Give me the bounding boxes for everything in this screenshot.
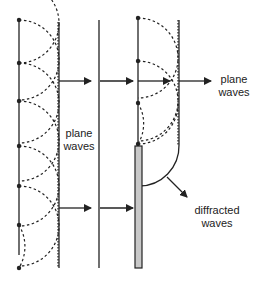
label-line: waves [187,217,247,230]
diffracted-wavefront [139,145,179,186]
label-line: waves [60,140,98,153]
output-arrows [138,81,211,197]
label-line: plane [214,73,254,86]
diffraction-diagram [0,0,259,282]
label-line: waves [214,86,254,99]
label-line: plane [60,127,98,140]
plane-waves-label-middle: plane waves [60,127,98,153]
diffracted-waves-label: diffracted waves [187,204,247,230]
barrier [135,146,142,268]
label-line: diffracted [187,204,247,217]
plane-waves-label-right: plane waves [214,73,254,99]
left-wavefront [17,18,21,270]
left-wavelets [19,0,59,268]
